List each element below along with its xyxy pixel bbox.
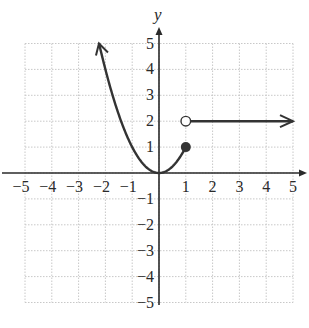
y-tick-label: 5 [146, 35, 154, 52]
y-tick-label: 2 [146, 112, 154, 129]
y-tick-label: −4 [137, 268, 154, 285]
x-tick-label: −3 [66, 178, 83, 195]
open-circle [181, 116, 191, 126]
x-tick-label: −2 [93, 178, 110, 195]
x-tick-label: 1 [182, 178, 190, 195]
y-tick-label: −3 [137, 242, 154, 259]
parabola-curve [99, 43, 186, 173]
y-axis-label: y [152, 5, 162, 24]
y-tick-label: −1 [137, 190, 154, 207]
x-axis-arrow-icon [299, 170, 307, 177]
y-tick-label: 4 [146, 60, 154, 77]
y-tick-label: 3 [146, 86, 154, 103]
piecewise-function-graph: −5−4−3−2−11234554321−1−2−3−4−5 y [0, 0, 309, 328]
x-tick-label: 2 [209, 178, 217, 195]
x-tick-label: −1 [120, 178, 137, 195]
closed-dot [181, 142, 191, 152]
x-tick-label: 3 [235, 178, 243, 195]
y-tick-label: −2 [137, 216, 154, 233]
x-tick-label: −5 [12, 178, 29, 195]
y-tick-label: −5 [137, 294, 154, 311]
x-tick-label: −4 [39, 178, 56, 195]
y-axis-arrow-icon [156, 27, 163, 35]
function-curves [96, 43, 293, 173]
y-tick-label: 1 [146, 138, 154, 155]
x-tick-label: 5 [289, 178, 297, 195]
axes [2, 27, 307, 305]
x-tick-label: 4 [262, 178, 270, 195]
